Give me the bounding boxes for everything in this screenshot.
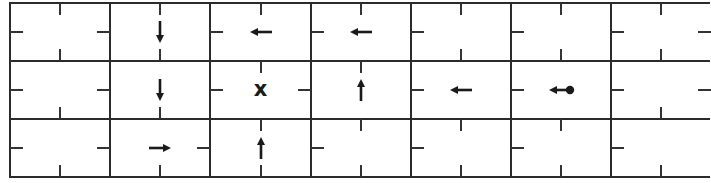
door-tick-bottom — [59, 107, 61, 119]
grid-cell-r0-c4 — [411, 3, 511, 61]
door-tick-bottom — [460, 165, 462, 177]
door-tick-bottom — [560, 165, 562, 177]
grid-cell-r1-c4 — [411, 61, 511, 119]
grid-cell-r0-c1 — [110, 3, 210, 61]
door-tick-left — [611, 31, 624, 33]
grid-cell-r1-c1 — [110, 61, 210, 119]
door-tick-left — [210, 31, 223, 33]
door-tick-left — [411, 89, 424, 91]
grid-cell-r0-c5 — [511, 3, 611, 61]
door-tick-left — [311, 31, 324, 33]
door-tick-right — [97, 31, 110, 33]
arrow-left-icon — [241, 12, 281, 52]
door-tick-top — [560, 3, 562, 15]
door-tick-top — [59, 3, 61, 15]
arrow-down-icon — [140, 12, 180, 52]
grid-cell-r2-c5 — [511, 119, 611, 177]
door-tick-left — [10, 89, 23, 91]
door-tick-right — [698, 89, 711, 91]
door-tick-left — [411, 147, 424, 149]
door-tick-left — [10, 147, 23, 149]
door-tick-bottom — [560, 49, 562, 61]
door-tick-top — [560, 119, 562, 131]
start-dot-arrow-left-icon — [541, 70, 581, 110]
grid-cell-r0-c3 — [311, 3, 411, 61]
grid-cell-r0-c2 — [210, 3, 311, 61]
door-tick-right — [197, 147, 210, 149]
arrow-down-icon — [140, 70, 180, 110]
door-tick-right — [298, 89, 311, 91]
door-tick-bottom — [660, 107, 662, 119]
grid-cell-r1-c2: x — [210, 61, 311, 119]
grid-cell-r0-c6 — [611, 3, 711, 61]
door-tick-left — [611, 89, 624, 91]
door-tick-right — [97, 147, 110, 149]
arrow-left-icon — [441, 70, 481, 110]
grid-cell-r2-c0 — [10, 119, 110, 177]
grid-cell-r1-c6 — [611, 61, 711, 119]
door-tick-left — [311, 147, 324, 149]
door-tick-left — [511, 147, 524, 149]
grid-world: x — [10, 3, 700, 177]
door-tick-right — [97, 89, 110, 91]
door-tick-left — [210, 89, 223, 91]
door-tick-left — [411, 31, 424, 33]
grid-cell-r2-c1 — [110, 119, 210, 177]
door-tick-top — [260, 61, 262, 73]
door-tick-top — [460, 3, 462, 15]
door-tick-bottom — [660, 165, 662, 177]
door-tick-bottom — [59, 49, 61, 61]
arrow-left-icon — [341, 12, 381, 52]
arrow-up-icon — [241, 128, 281, 168]
grid-cell-r0-c0 — [10, 3, 110, 61]
arrow-up-icon — [341, 70, 381, 110]
door-tick-right — [698, 31, 711, 33]
door-tick-top — [360, 119, 362, 131]
door-tick-bottom — [59, 165, 61, 177]
door-tick-top — [460, 119, 462, 131]
door-tick-bottom — [360, 165, 362, 177]
goal-x-icon: x — [253, 77, 269, 101]
arrow-right-icon — [140, 128, 180, 168]
grid-cell-r2-c3 — [311, 119, 411, 177]
door-tick-left — [611, 147, 624, 149]
door-tick-bottom — [660, 49, 662, 61]
grid-cell-r2-c4 — [411, 119, 511, 177]
grid-cell-r2-c2 — [210, 119, 311, 177]
grid-cell-r1-c3 — [311, 61, 411, 119]
door-tick-top — [660, 3, 662, 15]
grid-cell-r2-c6 — [611, 119, 711, 177]
door-tick-left — [511, 89, 524, 91]
door-tick-left — [10, 31, 23, 33]
door-tick-left — [511, 31, 524, 33]
grid-cell-r1-c5 — [511, 61, 611, 119]
grid-cell-r1-c0 — [10, 61, 110, 119]
door-tick-bottom — [460, 49, 462, 61]
